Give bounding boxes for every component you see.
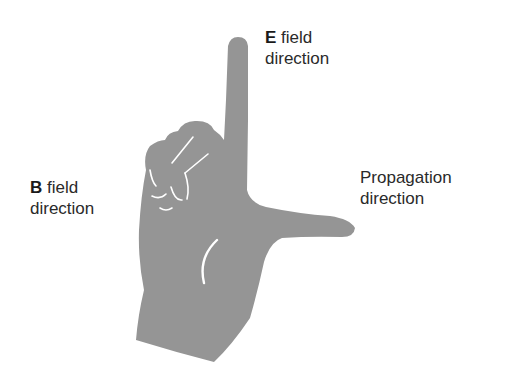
hand-shape: [136, 37, 355, 362]
propagation-word: Propagation: [360, 167, 452, 188]
e-field-direction-text: direction: [265, 48, 329, 69]
e-field-label: E field direction: [265, 27, 329, 69]
propagation-label: Propagation direction: [360, 167, 452, 209]
b-field-label: B field direction: [30, 177, 94, 219]
b-field-direction-text: direction: [30, 198, 94, 219]
e-field-symbol: E: [265, 28, 276, 47]
e-field-word: field: [276, 28, 312, 47]
propagation-direction-text: direction: [360, 188, 452, 209]
b-field-word: field: [42, 178, 78, 197]
diagram-canvas: E field direction B field direction Prop…: [0, 0, 513, 387]
b-field-symbol: B: [30, 178, 42, 197]
